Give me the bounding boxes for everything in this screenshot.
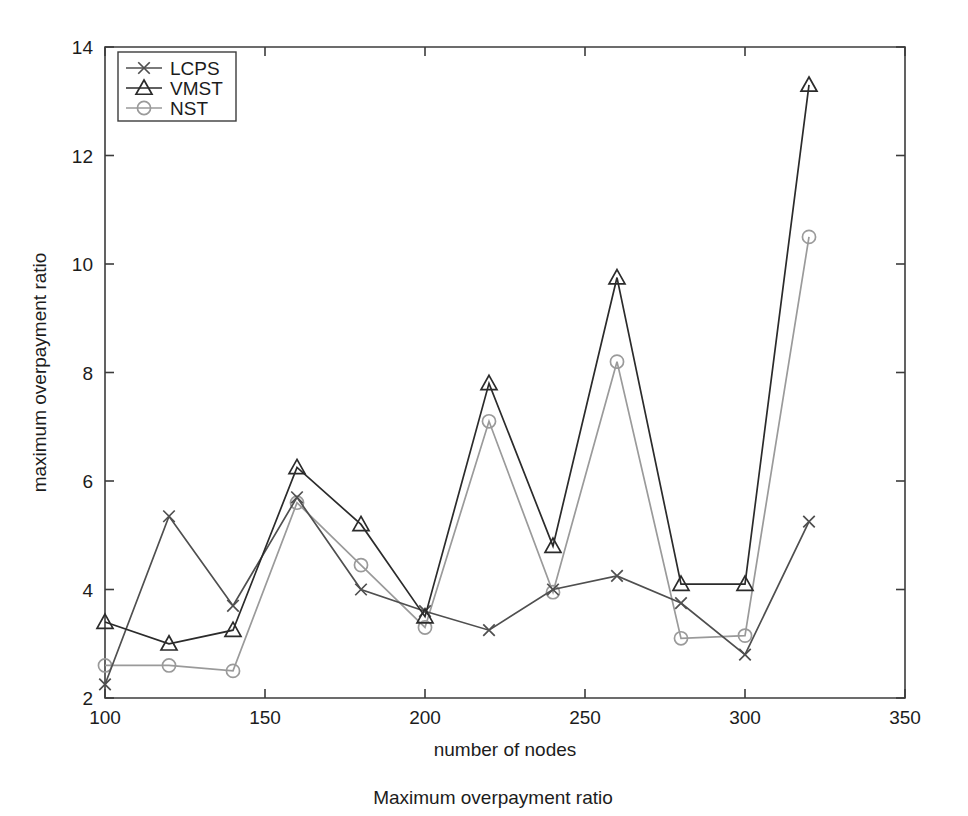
legend-label: VMST: [170, 78, 223, 99]
y-tick-label: 8: [82, 363, 93, 384]
series-line: [105, 85, 809, 644]
marker-x: [227, 600, 239, 612]
series-vmst: [97, 77, 817, 650]
chart-figure: 1001502002503003502468101214 number of n…: [0, 0, 968, 816]
x-tick-label: 250: [569, 707, 601, 728]
legend-label: LCPS: [170, 58, 220, 79]
marker-x: [355, 584, 367, 596]
marker-x: [803, 516, 815, 528]
marker-x: [483, 624, 495, 636]
y-tick-label: 6: [82, 471, 93, 492]
legend: LCPSVMSTNST: [118, 52, 236, 121]
x-tick-label: 300: [729, 707, 761, 728]
legend-label: NST: [170, 98, 208, 119]
line-chart: 1001502002503003502468101214 number of n…: [0, 0, 968, 816]
axis-frame: [105, 47, 905, 698]
marker-x: [163, 511, 175, 523]
x-tick-label: 150: [249, 707, 281, 728]
y-tick-label: 14: [72, 37, 94, 58]
data-series-group: [97, 77, 817, 690]
x-tick-label: 200: [409, 707, 441, 728]
series-line: [105, 237, 809, 671]
series-nst: [98, 230, 815, 677]
y-tick-label: 10: [72, 254, 93, 275]
tick-labels: 1001502002503003502468101214: [72, 37, 921, 728]
figure-caption: Maximum overpayment ratio: [373, 787, 613, 808]
x-tick-label: 350: [889, 707, 921, 728]
marker-x: [675, 597, 687, 609]
y-axis-title: maximum overpayment ratio: [29, 253, 50, 493]
axes: [105, 47, 905, 698]
x-tick-label: 100: [89, 707, 121, 728]
series-lcps: [99, 492, 815, 691]
y-tick-label: 12: [72, 146, 93, 167]
marker-x: [739, 649, 751, 661]
y-tick-label: 2: [82, 688, 93, 709]
x-axis-title: number of nodes: [434, 739, 577, 760]
y-tick-label: 4: [82, 580, 93, 601]
